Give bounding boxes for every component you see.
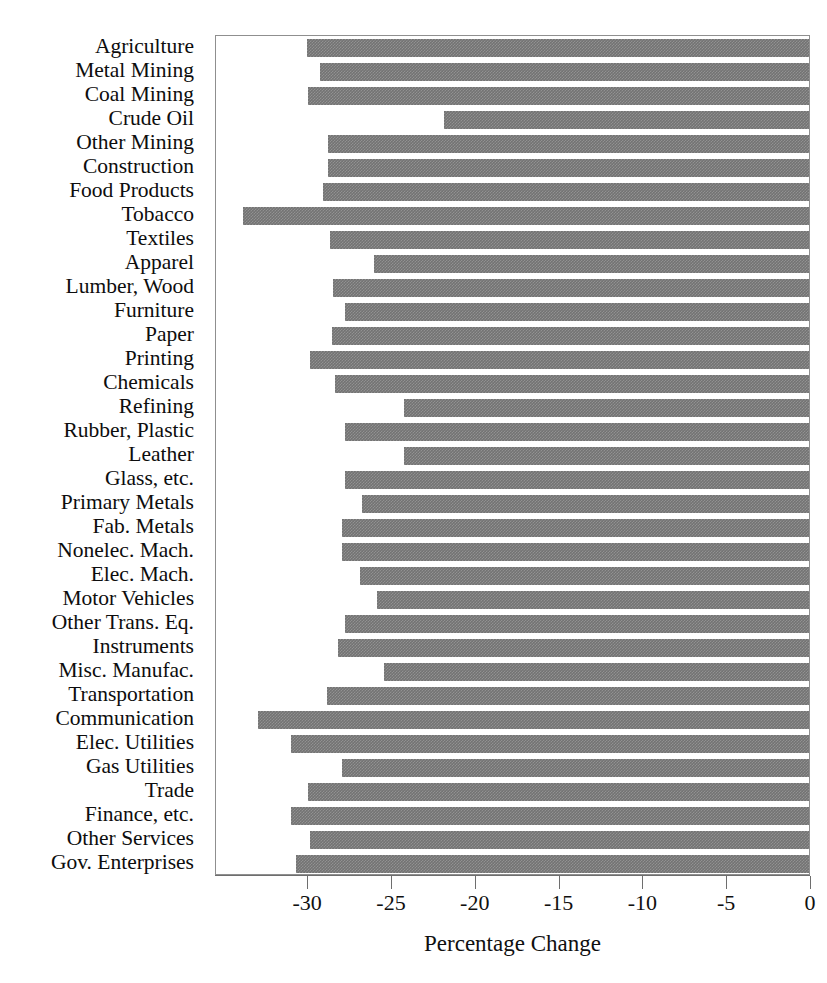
category-label: Agriculture: [95, 36, 194, 58]
category-label: Other Trans. Eq.: [52, 612, 194, 634]
bar: [291, 807, 810, 825]
x-tick-label: -20: [460, 892, 489, 914]
bar: [332, 327, 810, 345]
category-label: Other Services: [67, 828, 194, 850]
category-label: Misc. Manufac.: [58, 660, 194, 682]
x-tick: [391, 876, 392, 889]
bar: [310, 351, 810, 369]
category-label: Furniture: [114, 300, 194, 322]
category-label: Finance, etc.: [85, 804, 194, 826]
category-label: Instruments: [92, 636, 194, 658]
x-tick: [475, 876, 476, 889]
category-label: Primary Metals: [61, 492, 194, 514]
x-tick: [307, 876, 308, 889]
x-tick-label: -10: [628, 892, 657, 914]
category-label: Crude Oil: [109, 108, 194, 130]
category-label: Gas Utilities: [86, 756, 194, 778]
x-tick-label: -15: [544, 892, 573, 914]
x-tick: [559, 876, 560, 889]
category-label: Elec. Utilities: [76, 732, 194, 754]
category-label: Food Products: [69, 180, 194, 202]
bar: [345, 423, 810, 441]
category-label: Lumber, Wood: [66, 276, 194, 298]
x-tick: [726, 876, 727, 889]
bar: [345, 615, 810, 633]
bar: [328, 135, 810, 153]
x-tick: [810, 876, 811, 889]
bar: [377, 591, 810, 609]
category-label: Tobacco: [121, 204, 194, 226]
category-label: Coal Mining: [85, 84, 194, 106]
plot-area: [215, 35, 810, 875]
bar: [327, 687, 810, 705]
bar: [342, 759, 810, 777]
bar: [328, 159, 810, 177]
category-label: Motor Vehicles: [62, 588, 194, 610]
bar: [444, 111, 810, 129]
bar: [308, 783, 810, 801]
category-label: Fab. Metals: [92, 516, 194, 538]
bar: [338, 639, 810, 657]
bar: [243, 207, 810, 225]
bar: [374, 255, 810, 273]
bar: [345, 303, 810, 321]
bar: [360, 567, 810, 585]
bar: [323, 183, 810, 201]
bar-chart: AgricultureMetal MiningCoal MiningCrude …: [0, 0, 827, 983]
bar: [362, 495, 810, 513]
category-label: Other Mining: [76, 132, 194, 154]
category-label: Elec. Mach.: [91, 564, 194, 586]
x-tick-label: 0: [805, 892, 816, 914]
category-label: Chemicals: [103, 372, 194, 394]
bar: [308, 87, 810, 105]
x-tick-label: -30: [293, 892, 322, 914]
x-tick-label: -5: [717, 892, 735, 914]
x-axis: -30-25-20-15-10-50: [215, 875, 810, 935]
category-label: Apparel: [125, 252, 194, 274]
category-label: Printing: [125, 348, 194, 370]
bar: [307, 39, 811, 57]
category-label: Rubber, Plastic: [63, 420, 194, 442]
category-label: Nonelec. Mach.: [57, 540, 194, 562]
x-tick-label: -25: [376, 892, 405, 914]
category-label: Construction: [83, 156, 194, 178]
bar: [404, 447, 810, 465]
bar: [330, 231, 810, 249]
bar: [333, 279, 810, 297]
bar: [404, 399, 810, 417]
category-label: Leather: [128, 444, 194, 466]
bar: [296, 855, 810, 873]
bar: [345, 471, 810, 489]
bar: [342, 519, 810, 537]
bar: [291, 735, 810, 753]
bar: [384, 663, 810, 681]
bar: [335, 375, 810, 393]
bar: [258, 711, 810, 729]
category-label: Textiles: [126, 228, 194, 250]
bar: [320, 63, 810, 81]
category-label: Paper: [145, 324, 194, 346]
category-label: Gov. Enterprises: [51, 852, 194, 874]
x-axis-title: Percentage Change: [215, 932, 810, 955]
category-label: Transportation: [68, 684, 194, 706]
bar: [342, 543, 810, 561]
x-axis-line: [215, 875, 810, 876]
category-label: Communication: [55, 708, 194, 730]
category-label: Glass, etc.: [105, 468, 194, 490]
bar: [310, 831, 810, 849]
category-label: Metal Mining: [75, 60, 194, 82]
category-axis: AgricultureMetal MiningCoal MiningCrude …: [0, 35, 200, 875]
category-label: Trade: [145, 780, 194, 802]
category-label: Refining: [119, 396, 194, 418]
x-tick: [642, 876, 643, 889]
